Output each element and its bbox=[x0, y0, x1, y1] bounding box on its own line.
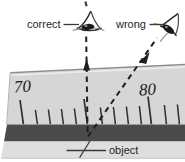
eye-correct-pupil-highlight bbox=[85, 25, 88, 27]
eye-wrong bbox=[154, 14, 179, 42]
label-wrong: wrong bbox=[116, 19, 146, 30]
arrow-up-right-icon bbox=[139, 52, 150, 64]
label-object: object bbox=[109, 145, 138, 156]
scale-number-80: 80 bbox=[139, 81, 157, 99]
parallax-scale-figure: correct wrong object 70 80 bbox=[0, 0, 185, 162]
eye-wrong-outer-curve bbox=[176, 14, 179, 35]
eye-wrong-pupil-highlight bbox=[165, 26, 168, 28]
eye-correct bbox=[73, 11, 105, 31]
scale-number-70: 70 bbox=[14, 78, 32, 96]
eye-wrong-lash bbox=[160, 32, 168, 41]
arrow-up-icon bbox=[83, 58, 90, 71]
stray-mark-icon bbox=[85, 2, 86, 7]
label-correct: correct bbox=[27, 19, 61, 30]
